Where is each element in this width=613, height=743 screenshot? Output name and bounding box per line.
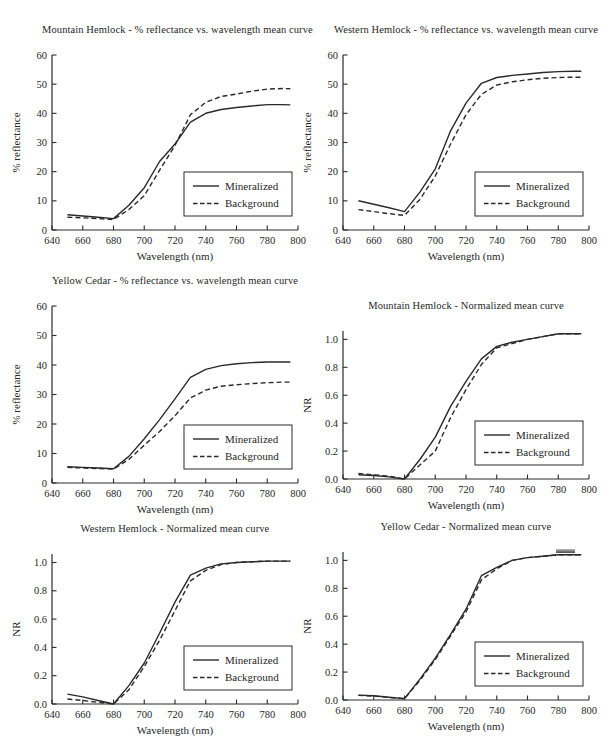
- chart-title: Yellow Cedar - Normalized mean curve: [299, 521, 599, 537]
- x-tick-label: 700: [427, 705, 443, 716]
- y-tick-label: 0.0: [325, 695, 338, 706]
- legend-label: Background: [516, 667, 570, 679]
- chart-panel-mountain-hemlock-normalized: Mountain Hemlock - Normalized mean curve…: [299, 300, 599, 511]
- legend: MineralizedBackground: [475, 642, 583, 686]
- x-axis-label: Wavelength (nm): [299, 499, 599, 511]
- y-tick-label: 50: [37, 79, 48, 90]
- x-tick-label: 680: [106, 709, 122, 720]
- y-tick-label: 0.2: [34, 670, 47, 681]
- x-tick-label: 700: [136, 235, 152, 246]
- x-tick-label: 720: [458, 484, 474, 495]
- legend: MineralizedBackground: [475, 421, 583, 465]
- x-tick-label: 800: [581, 484, 597, 495]
- chart-canvas: 6406606807007207407607808000102030405060…: [299, 49, 599, 252]
- y-tick-label: 10: [37, 448, 48, 459]
- chart-panel-yellow-cedar-reflectance: Yellow Cedar - % reflectance vs. wavelen…: [8, 275, 308, 515]
- y-axis-label: NR: [10, 621, 22, 637]
- y-axis-label: % reflectance: [10, 364, 22, 424]
- x-tick-label: 720: [167, 709, 183, 720]
- legend-label: Mineralized: [225, 180, 279, 192]
- scan-artifact-mark: [556, 549, 575, 553]
- axes: 6406606807007207407607808000.00.20.40.60…: [325, 331, 597, 495]
- chart-title: Yellow Cedar - % reflectance vs. wavelen…: [8, 275, 308, 291]
- x-tick-label: 720: [458, 705, 474, 716]
- chart-panel-yellow-cedar-normalized: Yellow Cedar - Normalized mean curve 640…: [299, 521, 599, 732]
- legend-label: Background: [516, 197, 570, 209]
- legend: MineralizedBackground: [184, 646, 292, 690]
- x-axis-label: Wavelength (nm): [8, 503, 308, 515]
- x-tick-label: 640: [335, 484, 351, 495]
- x-tick-label: 780: [550, 235, 566, 246]
- y-tick-label: 1.0: [325, 334, 338, 345]
- x-tick-label: 740: [489, 705, 505, 716]
- x-tick-label: 680: [397, 705, 413, 716]
- y-tick-label: 30: [37, 389, 48, 400]
- chart-canvas: 6406606807007207407607808000102030405060…: [8, 49, 308, 252]
- chart-panel-western-hemlock-reflectance: Western Hemlock - % reflectance vs. wave…: [299, 24, 599, 262]
- chart-canvas: 6406606807007207407607808000102030405060…: [8, 300, 308, 505]
- y-tick-label: 0.4: [34, 642, 48, 653]
- x-tick-label: 800: [581, 705, 597, 716]
- y-axis-label: % reflectance: [10, 112, 22, 172]
- x-tick-label: 680: [397, 235, 413, 246]
- chart-canvas: 6406606807007207407607808000.00.20.40.60…: [299, 546, 599, 722]
- x-tick-label: 740: [198, 709, 214, 720]
- x-axis-label: Wavelength (nm): [299, 720, 599, 732]
- legend-label: Mineralized: [516, 180, 570, 192]
- x-tick-label: 700: [427, 235, 443, 246]
- x-tick-label: 760: [520, 705, 536, 716]
- x-tick-label: 660: [75, 488, 91, 499]
- y-axis-label: % reflectance: [301, 112, 313, 172]
- x-tick-label: 740: [489, 484, 505, 495]
- x-tick-label: 780: [259, 488, 275, 499]
- x-tick-label: 640: [44, 488, 60, 499]
- x-tick-label: 660: [366, 705, 382, 716]
- legend-label: Mineralized: [225, 433, 279, 445]
- x-tick-label: 740: [198, 235, 214, 246]
- y-tick-label: 0.8: [325, 362, 338, 373]
- x-tick-label: 780: [259, 709, 275, 720]
- x-tick-label: 760: [229, 709, 245, 720]
- y-tick-label: 30: [37, 137, 48, 148]
- x-tick-label: 700: [136, 488, 152, 499]
- y-tick-label: 50: [328, 79, 339, 90]
- x-tick-label: 640: [335, 705, 351, 716]
- x-tick-label: 660: [366, 484, 382, 495]
- legend: MineralizedBackground: [184, 425, 292, 469]
- y-tick-label: 60: [37, 301, 48, 312]
- y-tick-label: 20: [37, 166, 48, 177]
- x-tick-label: 640: [44, 709, 60, 720]
- y-tick-label: 0.8: [325, 583, 338, 594]
- y-tick-label: 0: [42, 225, 47, 236]
- x-tick-label: 780: [259, 235, 275, 246]
- x-tick-label: 760: [229, 235, 245, 246]
- y-tick-label: 60: [37, 50, 48, 61]
- y-tick-label: 0.6: [325, 611, 338, 622]
- y-tick-label: 40: [37, 360, 48, 371]
- y-tick-label: 0.2: [325, 667, 338, 678]
- legend: MineralizedBackground: [475, 172, 583, 216]
- legend-label: Background: [225, 450, 279, 462]
- x-tick-label: 660: [366, 235, 382, 246]
- y-tick-label: 0.0: [325, 474, 338, 485]
- legend-label: Mineralized: [225, 654, 279, 666]
- legend-label: Background: [225, 671, 279, 683]
- y-tick-label: 0.2: [325, 446, 338, 457]
- y-tick-label: 0: [333, 225, 338, 236]
- chart-title: Western Hemlock - % reflectance vs. wave…: [299, 24, 599, 40]
- x-tick-label: 680: [106, 488, 122, 499]
- chart-title: Mountain Hemlock - % reflectance vs. wav…: [8, 24, 308, 40]
- y-tick-label: 0.4: [325, 418, 339, 429]
- chart-canvas: 6406606807007207407607808000.00.20.40.60…: [299, 325, 599, 501]
- x-tick-label: 660: [75, 709, 91, 720]
- chart-canvas: 6406606807007207407607808000.00.20.40.60…: [8, 548, 308, 726]
- x-tick-label: 760: [520, 484, 536, 495]
- y-axis-label: NR: [301, 397, 313, 413]
- y-tick-label: 40: [328, 108, 339, 119]
- x-tick-label: 720: [167, 488, 183, 499]
- x-axis-label: Wavelength (nm): [8, 250, 308, 262]
- x-tick-label: 720: [458, 235, 474, 246]
- y-tick-label: 0.6: [325, 390, 338, 401]
- x-tick-label: 760: [229, 488, 245, 499]
- chart-panel-western-hemlock-normalized: Western Hemlock - Normalized mean curve …: [8, 523, 308, 736]
